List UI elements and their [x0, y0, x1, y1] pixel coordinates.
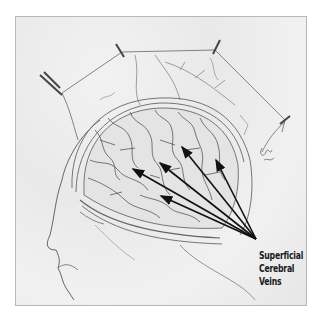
artist-signature	[261, 148, 274, 160]
label-line-2: Cerebral	[259, 262, 303, 275]
label-line-1: Superficial	[259, 249, 303, 262]
label-line-3: Veins	[259, 275, 303, 288]
brain-surface	[84, 108, 238, 228]
superficial-cerebral-veins-label: Superficial Cerebral Veins	[259, 249, 303, 288]
